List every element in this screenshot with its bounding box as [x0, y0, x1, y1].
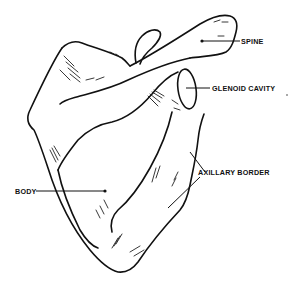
label-spine: SPINE [241, 37, 264, 46]
diagram-canvas: SPINE GLENOID CAVITY AXILLARY BORDER BOD… [0, 0, 296, 295]
lateral-pillar [111, 112, 172, 232]
spine-lower-edge [60, 58, 190, 104]
superior-border-line [62, 42, 130, 66]
label-axillary-border: AXILLARY BORDER [198, 168, 270, 177]
stray-mark [286, 94, 287, 95]
coracoid-process [135, 30, 160, 64]
scapula-outline [28, 15, 237, 272]
label-body: BODY [15, 187, 37, 196]
shading-hatches [50, 20, 228, 256]
label-glenoid-cavity: GLENOID CAVITY [212, 84, 275, 93]
scapula-diagram: SPINE GLENOID CAVITY AXILLARY BORDER BOD… [0, 0, 296, 295]
neck-contour [58, 72, 178, 170]
leader-lines [36, 39, 240, 208]
glenoid-cavity-shape [175, 68, 198, 110]
